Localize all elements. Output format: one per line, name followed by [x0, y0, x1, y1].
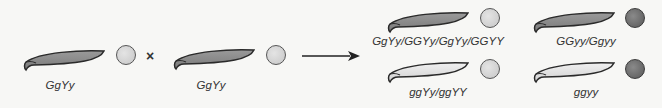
parent-1-genotype: GgYy	[46, 79, 75, 91]
offspring-4-genotype: ggyy	[574, 86, 598, 98]
parent-1-pod	[20, 48, 108, 72]
offspring-4-pod	[530, 60, 618, 84]
offspring-1-seed	[480, 8, 500, 28]
offspring-2-seed	[625, 8, 645, 28]
arrow-icon	[300, 50, 360, 62]
offspring-1-genotype: GgYy/GGYy/GgYy/GGYY	[372, 35, 504, 47]
offspring-2-pod	[530, 10, 618, 34]
parent-2-seed	[266, 45, 286, 65]
offspring-3-genotype: ggYy/ggYY	[409, 86, 467, 98]
parent-2-pod	[170, 47, 258, 71]
offspring-1-pod	[384, 10, 472, 34]
offspring-3-seed	[480, 59, 500, 79]
offspring-2-genotype: GGyy/Ggyy	[556, 35, 615, 47]
offspring-3-pod	[384, 60, 472, 84]
parent-1-seed	[116, 45, 136, 65]
cross-symbol: ×	[146, 48, 154, 64]
parent-2-genotype: GgYy	[197, 79, 226, 91]
offspring-4-seed	[625, 59, 645, 79]
